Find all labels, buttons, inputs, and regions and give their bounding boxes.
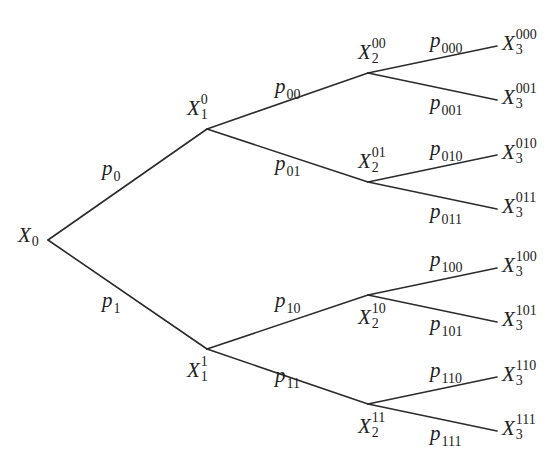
node-subscript: 3	[516, 374, 523, 388]
probability-subscript: 001	[442, 103, 463, 118]
probability-symbol: p	[102, 288, 113, 312]
node-superscript: 011	[516, 191, 536, 205]
node-subscript: 2	[372, 52, 379, 66]
node-variable: X	[187, 96, 200, 120]
node-subscript: 1	[201, 370, 208, 384]
node-subscript: 1	[201, 108, 208, 122]
probability-subscript: 10	[287, 301, 301, 316]
edge-probability-label: p00	[275, 76, 301, 97]
node-variable: X	[358, 40, 371, 64]
edge-probability-label: p101	[430, 313, 463, 334]
node-superscript: 000	[516, 28, 537, 42]
node-variable: X	[358, 149, 371, 173]
edge-probability-label: p010	[430, 138, 463, 159]
node-superscript: 001	[516, 82, 537, 96]
probability-symbol: p	[275, 363, 286, 387]
edge-probability-label: p011	[430, 201, 462, 222]
probability-symbol: p	[430, 28, 441, 52]
probability-symbol: p	[430, 358, 441, 382]
node-subscript: 3	[516, 43, 523, 57]
tree-edges	[0, 0, 560, 466]
node-superscript: 110	[516, 359, 536, 373]
probability-subscript: 1	[114, 301, 121, 316]
probability-symbol: p	[275, 74, 286, 98]
probability-subscript: 00	[287, 87, 301, 102]
edge-probability-label: p100	[430, 249, 463, 270]
probability-subscript: 0	[114, 169, 121, 184]
probability-subscript: 011	[442, 212, 462, 227]
edge-X0-X1_1	[48, 240, 207, 349]
probability-symbol: p	[275, 151, 286, 175]
node-subscript: 3	[516, 206, 523, 220]
edge-probability-label: p10	[275, 290, 301, 311]
node-label-X3_100: X1003	[502, 255, 515, 276]
probability-subscript: 010	[442, 149, 463, 164]
edge-probability-label: p0	[102, 158, 121, 179]
node-superscript: 11	[372, 411, 385, 425]
probability-subscript: 101	[442, 324, 463, 339]
edge-probability-label: p001	[430, 92, 463, 113]
node-subscript: 3	[516, 428, 523, 442]
node-label-X3_011: X0113	[502, 196, 515, 217]
node-superscript: 111	[516, 413, 536, 427]
node-superscript: 00	[372, 37, 386, 51]
node-subscript: 3	[516, 265, 523, 279]
probability-subscript: 11	[287, 376, 300, 391]
node-subscript: 3	[516, 319, 523, 333]
probability-subscript: 110	[442, 371, 462, 386]
node-label-X3_110: X1103	[502, 364, 515, 385]
node-variable: X	[187, 358, 200, 382]
node-subscript: 3	[516, 152, 523, 166]
probability-subscript: 111	[442, 434, 462, 449]
probability-subscript: 000	[442, 41, 463, 56]
probability-symbol: p	[102, 156, 113, 180]
node-variable: X	[358, 414, 371, 438]
node-variable: X	[502, 140, 515, 164]
node-variable: X	[502, 362, 515, 386]
node-subscript: 0	[32, 235, 39, 249]
node-superscript: 1	[201, 355, 208, 369]
edge-X2_10-X3_100	[368, 268, 497, 295]
node-subscript: 2	[372, 317, 379, 331]
node-superscript: 01	[372, 146, 386, 160]
edge-probability-label: p000	[430, 30, 463, 51]
node-superscript: 0	[201, 93, 208, 107]
node-label-X0: X0	[18, 225, 31, 246]
probability-subscript: 100	[442, 260, 463, 275]
node-subscript: 2	[372, 161, 379, 175]
edge-X0-X1_0	[48, 129, 207, 240]
node-variable: X	[502, 253, 515, 277]
node-variable: X	[358, 305, 371, 329]
node-variable: X	[502, 194, 515, 218]
node-variable: X	[502, 307, 515, 331]
edge-probability-label: p110	[430, 360, 462, 381]
edge-probability-label: p11	[275, 365, 300, 386]
probability-symbol: p	[430, 247, 441, 271]
edge-probability-label: p1	[102, 290, 121, 311]
probability-subscript: 01	[287, 164, 301, 179]
node-variable: X	[502, 416, 515, 440]
node-subscript: 2	[372, 426, 379, 440]
edge-probability-label: p111	[430, 423, 461, 444]
node-subscript: 3	[516, 97, 523, 111]
node-label-X1_0: X01	[187, 98, 200, 119]
probability-symbol: p	[275, 288, 286, 312]
node-label-X3_000: X0003	[502, 33, 515, 54]
node-label-X3_001: X0013	[502, 87, 515, 108]
node-label-X3_010: X0103	[502, 142, 515, 163]
node-superscript: 010	[516, 137, 537, 151]
probability-symbol: p	[430, 90, 441, 114]
node-label-X2_10: X102	[358, 307, 371, 328]
probability-symbol: p	[430, 199, 441, 223]
node-label-X3_111: X1113	[502, 418, 515, 439]
probability-symbol: p	[430, 311, 441, 335]
node-variable: X	[18, 223, 31, 247]
node-label-X2_11: X112	[358, 416, 371, 437]
node-variable: X	[502, 31, 515, 55]
node-label-X2_01: X012	[358, 151, 371, 172]
probability-symbol: p	[430, 421, 441, 445]
node-superscript: 101	[516, 304, 537, 318]
node-label-X2_00: X002	[358, 42, 371, 63]
node-superscript: 10	[372, 302, 386, 316]
node-label-X3_101: X1013	[502, 309, 515, 330]
